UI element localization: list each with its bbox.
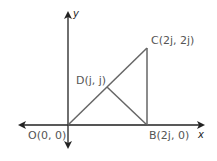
coordinate-diagram: y x C(2j, 2j) D(j, j) O(0, 0) B(2j, 0) bbox=[0, 0, 217, 161]
point-label-D: D(j, j) bbox=[76, 74, 106, 87]
point-label-B: B(2j, 0) bbox=[149, 129, 189, 142]
x-axis-label: x bbox=[197, 129, 204, 140]
y-axis-label: y bbox=[72, 8, 80, 19]
point-label-C: C(2j, 2j) bbox=[151, 34, 194, 47]
segment-BD bbox=[107, 87, 147, 125]
point-label-O: O(0, 0) bbox=[28, 129, 66, 142]
